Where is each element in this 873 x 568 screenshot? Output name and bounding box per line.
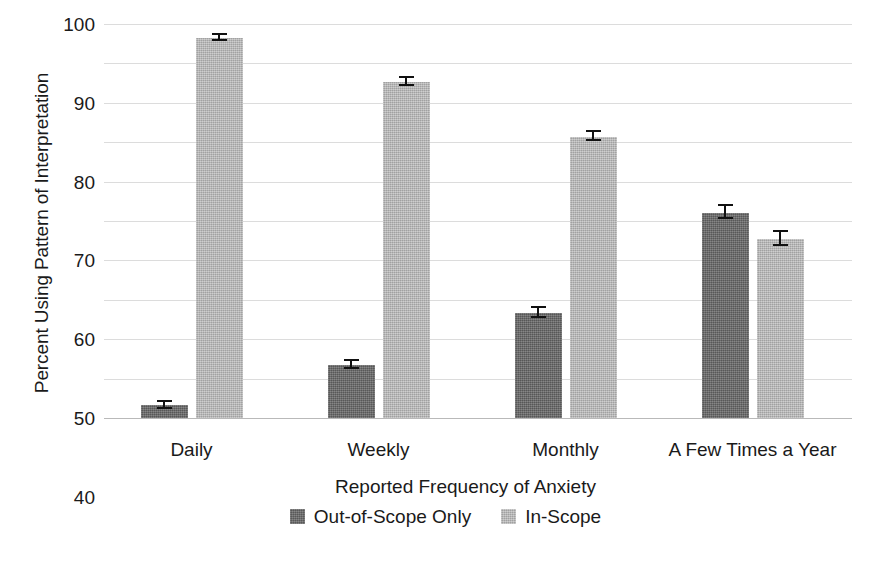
y-axis-tick-label: 90 (74, 93, 95, 112)
error-bar-cap-lower (773, 244, 788, 246)
error-bar-cap-upper (399, 76, 414, 78)
error-bar-cap-upper (212, 33, 227, 35)
y-axis-tick-label: 70 (74, 251, 95, 270)
x-axis-tick-label: Weekly (348, 440, 410, 459)
legend-item[interactable]: In-Scope (501, 507, 601, 526)
bar-group (665, 24, 852, 418)
legend-label: Out-of-Scope Only (314, 507, 471, 526)
error-bar-cap-upper (531, 306, 546, 308)
bar[interactable] (702, 213, 749, 418)
y-axis-tick-label: 80 (74, 172, 95, 191)
y-axis-tick-label: 100 (63, 15, 95, 34)
bar-chart-figure: Percent Using Pattern of Interpretation … (0, 0, 873, 568)
y-axis-title: Percent Using Pattern of Interpretation (31, 23, 53, 443)
gridline: 0 (104, 418, 852, 419)
bar-group (478, 24, 665, 418)
x-axis-tick-label: Monthly (532, 440, 599, 459)
error-bar-cap-lower (586, 139, 601, 141)
x-axis-tick-label: A Few Times a Year (669, 440, 837, 459)
bar[interactable] (757, 239, 804, 418)
error-bar-cap-upper (586, 130, 601, 132)
bar[interactable] (383, 82, 430, 418)
error-bar-cap-lower (212, 39, 227, 41)
error-bar-cap-lower (531, 316, 546, 318)
bar[interactable] (196, 38, 243, 418)
x-axis-tick-labels: DailyWeeklyMonthlyA Few Times a Year (104, 440, 852, 466)
legend-swatch-light (501, 509, 516, 524)
chart-legend: Out-of-Scope OnlyIn-Scope (0, 507, 873, 526)
bar[interactable] (515, 313, 562, 418)
error-bar-cap-lower (718, 217, 733, 219)
bar-group (104, 24, 291, 418)
x-axis-title: Reported Frequency of Anxiety (0, 476, 873, 498)
error-bar-cap-upper (344, 359, 359, 361)
error-bar-cap-lower (344, 367, 359, 369)
error-bar-cap-upper (773, 230, 788, 232)
error-bar-cap-upper (718, 204, 733, 206)
error-bar-cap-lower (157, 407, 172, 409)
x-axis-tick-label: Daily (170, 440, 212, 459)
bar[interactable] (570, 137, 617, 418)
bar-group (291, 24, 478, 418)
error-bar-cap-lower (399, 84, 414, 86)
plot-area: 0102030405060708090100 (104, 24, 852, 418)
bar-series-layer (104, 24, 852, 418)
legend-item[interactable]: Out-of-Scope Only (290, 507, 471, 526)
bar[interactable] (328, 365, 375, 418)
legend-swatch-dark (290, 509, 305, 524)
y-axis-tick-label: 60 (74, 330, 95, 349)
error-bar-cap-upper (157, 400, 172, 402)
y-axis-tick-label: 50 (74, 409, 95, 428)
legend-label: In-Scope (525, 507, 601, 526)
